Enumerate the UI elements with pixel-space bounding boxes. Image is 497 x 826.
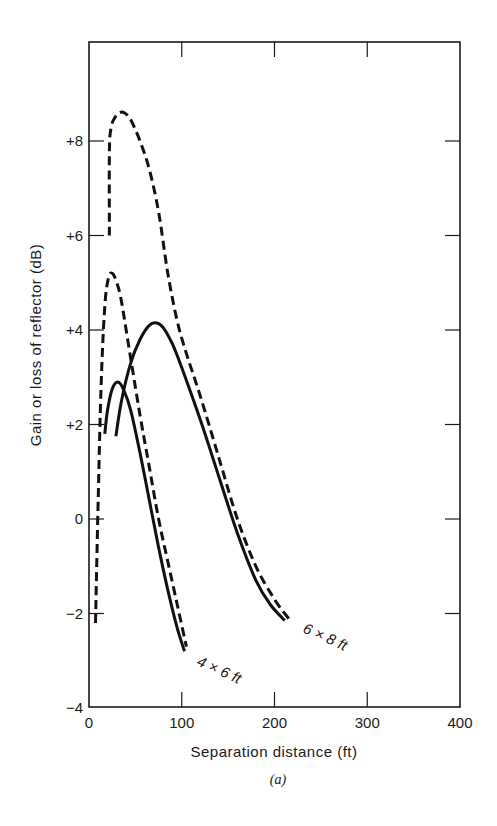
curve-label-4x6: 4 × 6 ft xyxy=(195,652,245,687)
chart: 0100200300400−4−20+2+4+6+8 Separation di… xyxy=(0,0,497,826)
y-tick-label: +8 xyxy=(66,132,83,149)
y-tick-label: +2 xyxy=(66,416,83,433)
x-tick-label: 100 xyxy=(169,714,194,731)
x-tick-label: 0 xyxy=(85,714,93,731)
curve-6x8-solid xyxy=(116,323,285,621)
curve-label-6x8: 6 × 8 ft xyxy=(301,619,351,654)
y-tick-label: +6 xyxy=(66,227,83,244)
axis-ticks: 0100200300400−4−20+2+4+6+8 xyxy=(66,42,473,731)
curve-6x8-dashed xyxy=(109,112,290,621)
x-tick-label: 300 xyxy=(355,714,380,731)
figure-caption: (a) xyxy=(270,772,287,788)
curves xyxy=(96,112,291,651)
y-tick-label: +4 xyxy=(66,321,83,338)
plot-frame xyxy=(89,42,460,707)
y-tick-label: −2 xyxy=(66,605,83,622)
x-axis-label: Separation distance (ft) xyxy=(190,743,357,760)
x-tick-label: 200 xyxy=(262,714,287,731)
y-tick-label: 0 xyxy=(75,510,83,527)
x-tick-label: 400 xyxy=(447,714,472,731)
y-axis-label: Gain or loss of reflector (dB) xyxy=(27,244,44,447)
plot-border xyxy=(89,42,460,707)
y-tick-label: −4 xyxy=(66,699,83,716)
